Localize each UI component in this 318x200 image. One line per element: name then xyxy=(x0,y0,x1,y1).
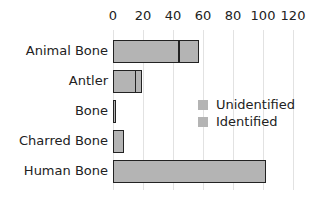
legend-item: Identified xyxy=(198,113,295,130)
segment-divider xyxy=(178,41,180,62)
category-label: Human Bone xyxy=(24,163,108,178)
legend: UnidentifiedIdentified xyxy=(198,96,295,130)
legend-swatch-icon xyxy=(198,100,208,110)
category-label: Antler xyxy=(69,73,108,88)
bar-antler xyxy=(113,70,142,93)
x-tick-label: 40 xyxy=(165,8,182,23)
x-tick-label: 60 xyxy=(195,8,212,23)
legend-label: Identified xyxy=(216,114,277,129)
category-label: Bone xyxy=(75,103,108,118)
bar-animal-bone xyxy=(113,40,199,63)
x-tick-label: 20 xyxy=(135,8,152,23)
x-tick-label: 120 xyxy=(281,8,306,23)
legend-swatch-icon xyxy=(198,117,208,127)
x-tick-label: 0 xyxy=(109,8,117,23)
legend-label: Unidentified xyxy=(216,97,295,112)
bar-bone xyxy=(113,100,116,123)
segment-divider xyxy=(135,71,137,92)
x-tick-label: 80 xyxy=(225,8,242,23)
category-label: Animal Bone xyxy=(26,43,108,58)
x-tick-label: 100 xyxy=(251,8,276,23)
bar-charred-bone xyxy=(113,130,124,153)
bar-human-bone xyxy=(113,160,266,183)
category-label: Charred Bone xyxy=(19,133,108,148)
legend-item: Unidentified xyxy=(198,96,295,113)
